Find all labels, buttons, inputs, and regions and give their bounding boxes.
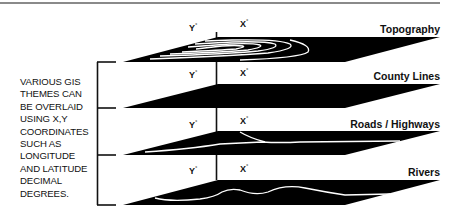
y-axis-label: Y° [189, 165, 197, 176]
layer-label-rivers: Rivers [408, 166, 440, 178]
x-axis-label: X° [240, 115, 248, 126]
y-axis-label: Y° [189, 22, 197, 33]
layer-county-lines [123, 84, 440, 108]
layer-label-county-lines: County Lines [373, 70, 440, 82]
x-axis-label: X° [240, 18, 248, 29]
y-axis-label: Y° [189, 119, 197, 130]
layer-roads-highways [123, 131, 440, 155]
layer-topography [123, 37, 440, 62]
x-axis-label: X° [240, 163, 248, 174]
bracket [97, 62, 116, 205]
layer-rivers [123, 180, 440, 205]
y-axis-label: Y° [189, 69, 197, 80]
layer-label-roads-highways: Roads / Highways [350, 118, 440, 130]
layer-label-topography: Topography [380, 23, 440, 35]
x-axis-label: X° [240, 67, 248, 78]
